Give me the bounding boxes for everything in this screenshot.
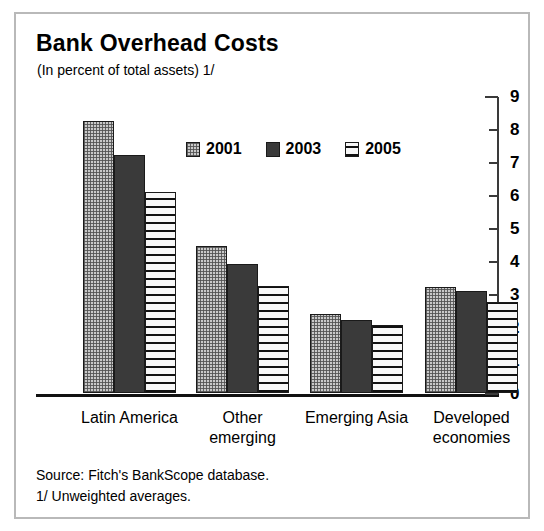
chart-figure: Bank Overhead Costs (In percent of total… [0,0,544,531]
bar-2005-latin-america [145,192,176,393]
x-axis-baseline [36,394,499,397]
y-tick-label-7: 7 [510,154,540,171]
y-tick-4 [489,261,498,263]
bar-2001-other-emerging [196,246,227,393]
y-tick-5 [489,228,498,230]
bar-2001-emerging-asia [310,314,341,393]
y-tick-label-6: 6 [510,187,540,204]
bar-2001-latin-america [83,121,114,393]
bar-2005-developed-economies [487,302,518,393]
y-tick-7 [489,162,498,164]
bar-2003-latin-america [114,155,145,393]
chart-subtitle: (In percent of total assets) 1/ [37,62,214,78]
y-tick-label-5: 5 [510,220,540,237]
y-tick-3 [489,294,498,296]
y-tick-0 [485,393,498,395]
bar-2001-developed-economies [425,287,456,393]
y-tick-label-3: 3 [510,286,540,303]
footnote: 1/ Unweighted averages. [36,486,269,507]
y-tick-8 [489,129,498,131]
y-tick-label-9: 9 [510,88,540,105]
plot-area: 0123456789 [36,97,498,395]
category-label-3: Developed economies [402,408,542,448]
bar-2005-other-emerging [258,286,289,393]
chart-title: Bank Overhead Costs [36,30,279,57]
y-tick-label-4: 4 [510,253,540,270]
y-tick-6 [489,195,498,197]
bar-2003-developed-economies [456,291,487,393]
y-tick-9 [485,96,498,98]
source-note: Source: Fitch's BankScope database. [36,465,269,486]
bar-2005-emerging-asia [372,325,403,393]
bar-2003-emerging-asia [341,320,372,393]
y-tick-label-8: 8 [510,121,540,138]
bar-2003-other-emerging [227,264,258,393]
chart-notes: Source: Fitch's BankScope database. 1/ U… [36,465,269,507]
